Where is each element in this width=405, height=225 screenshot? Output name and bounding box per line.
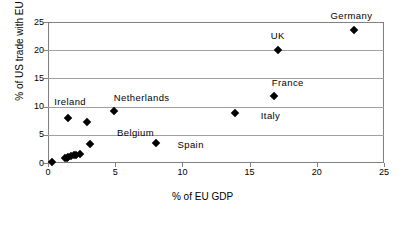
point-label-germany: Germany [330,11,372,21]
point-label-france: France [272,78,304,88]
y-tick-label-15: 15 [24,74,44,83]
x-tick-label-25: 25 [369,168,399,177]
x-tick-label-10: 10 [167,168,197,177]
y-tick-mark-25 [44,22,48,23]
gridline-y-10 [48,107,384,108]
plot-area-frame [48,22,384,163]
gridline-y-15 [48,78,384,79]
y-tick-label-10: 10 [24,102,44,111]
y-tick-mark-10 [44,107,48,108]
point-label-italy: Italy [261,111,280,121]
y-tick-label-5: 5 [24,130,44,139]
point-label-ireland: Ireland [54,97,86,107]
point-label-uk: UK [271,31,285,41]
x-tick-label-0: 0 [33,168,63,177]
point-label-spain: Spain [178,140,204,150]
point-label-belgium: Belgium [117,128,154,138]
x-tick-label-5: 5 [100,168,130,177]
y-tick-label-25: 25 [24,18,44,27]
y-tick-mark-20 [44,50,48,51]
x-tick-label-15: 15 [235,168,265,177]
scatter-chart-figure: 0510152025 0510152025 GermanyUKFranceIta… [0,0,405,225]
x-axis-title: % of EU GDP [0,192,405,202]
gridline-y-5 [48,135,384,136]
y-tick-mark-5 [44,135,48,136]
point-label-netherlands: Netherlands [114,93,170,103]
y-tick-mark-15 [44,78,48,79]
y-tick-label-0: 0 [24,159,44,168]
x-tick-label-20: 20 [302,168,332,177]
y-tick-label-20: 20 [24,46,44,55]
gridline-y-20 [48,50,384,51]
y-axis-title: % of US trade with EU [15,0,25,131]
